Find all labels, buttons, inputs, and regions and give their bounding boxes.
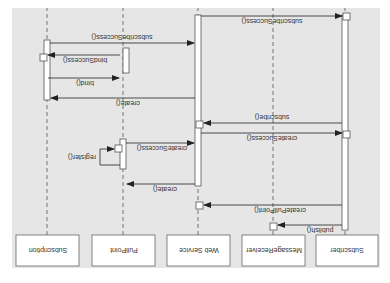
message-label: register() xyxy=(68,153,96,161)
participant-message-receiver: MessageReceiver xyxy=(242,235,305,266)
participant-subscription: Subscription xyxy=(16,235,79,266)
participant-label: Web Service xyxy=(179,247,219,254)
message-label: create() xyxy=(116,99,140,107)
participant-web-service: Web Service xyxy=(167,235,230,266)
message-label: createSuccess() xyxy=(247,134,298,142)
message-label: createPullPoint() xyxy=(254,206,306,214)
participant-subscriber: Subscriber xyxy=(316,235,378,266)
participant-label: MessageReceiver xyxy=(245,246,302,254)
participant-label: Subscriber xyxy=(330,247,364,254)
message-label: subscribeSuccess() xyxy=(241,17,302,25)
diagram-canvas: Subscriber MessageReceiver Web Service P… xyxy=(0,0,390,283)
participant-label: PullPoint xyxy=(110,247,138,254)
participant-label: Subscription xyxy=(29,246,68,254)
message-label: bindSuccess() xyxy=(63,56,107,64)
message-label: subscribe() xyxy=(255,113,290,121)
message-label: subscribeSuccess() xyxy=(91,33,152,41)
message-label: create() xyxy=(153,185,177,193)
message-label: publish() xyxy=(307,226,334,234)
participant-pull-point: PullPoint xyxy=(92,235,155,266)
message-label: createSuccess() xyxy=(137,144,188,152)
sequence-diagram: Subscriber MessageReceiver Web Service P… xyxy=(0,0,390,283)
message-label: bind() xyxy=(76,79,94,87)
